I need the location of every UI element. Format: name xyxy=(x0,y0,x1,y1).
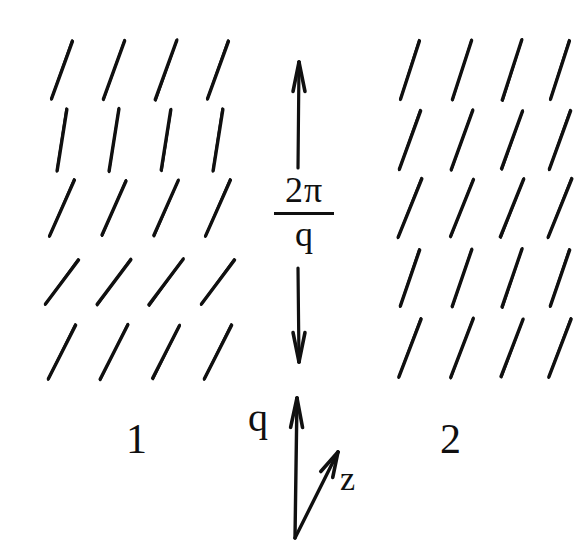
domain-2-strokes xyxy=(398,39,572,378)
figure-canvas xyxy=(0,0,582,560)
axis-arrows xyxy=(291,398,338,538)
pitch-numerator: 2π xyxy=(268,172,340,210)
domain-1-label: 1 xyxy=(126,418,147,460)
domain-1-strokes xyxy=(45,39,235,380)
liquid-crystal-twist-figure: 2π q 1 2 q z xyxy=(0,0,582,560)
z-axis-label: z xyxy=(340,462,355,496)
q-vector-label: q xyxy=(248,398,268,438)
pitch-fraction-label: 2π q xyxy=(268,172,340,254)
domain-2-label: 2 xyxy=(440,418,461,460)
pitch-denominator: q xyxy=(268,216,340,254)
